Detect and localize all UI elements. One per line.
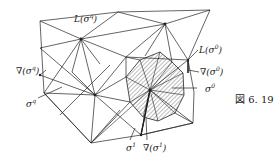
label-sigma-q: σq	[26, 98, 36, 109]
shaded-star-region	[126, 52, 184, 121]
label-L-sigma-0: L(σ0)	[199, 44, 222, 55]
triangulation-diagram	[0, 0, 279, 155]
label-nabla-sigma-q: ∇(σq)	[16, 65, 39, 76]
label-sigma-1: σ1	[126, 142, 136, 153]
outer-boundary	[40, 10, 210, 143]
label-sigma-0: σ0	[205, 83, 215, 94]
label-nabla-sigma-1: ∇(σ1)	[143, 142, 166, 153]
figure-caption: 図 6. 19	[235, 91, 274, 106]
label-L-sigma-q: L(σq)	[74, 13, 97, 24]
label-nabla-sigma-0: ∇(σ0)	[200, 66, 223, 77]
